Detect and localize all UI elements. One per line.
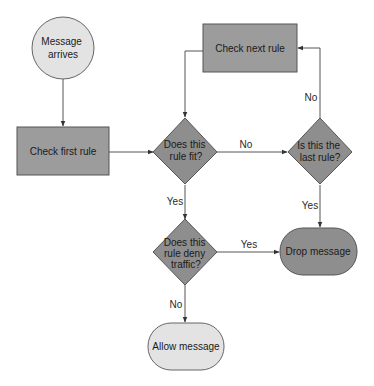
edge-label-deny-no: No: [170, 299, 183, 310]
node-label-line: arrives: [48, 49, 78, 60]
node-allow-message: Allow message: [148, 323, 224, 370]
node-label-line: rule deny: [164, 248, 205, 259]
edge-last-no-to-next-rule: [298, 48, 320, 118]
node-last-rule-decision: Is this the last rule?: [288, 118, 352, 184]
start-circle-shape: [32, 17, 94, 79]
decision-diamond-shape: [288, 118, 352, 184]
edge-next-rule-to-fit: [185, 51, 203, 117]
node-label: Allow message: [152, 341, 220, 352]
node-rule-deny-decision: Does this rule deny traffic?: [153, 219, 217, 285]
node-label: Does this rule fit?: [164, 139, 208, 162]
node-label-line: Message: [41, 36, 82, 47]
node-label-line: Does this: [164, 139, 206, 150]
edges: [63, 48, 320, 322]
node-label-line: last rule?: [300, 152, 341, 163]
node-message-arrives: Message arrives: [32, 17, 94, 79]
firewall-rule-flowchart: No No Yes Yes Yes No Message arrives Che…: [0, 0, 374, 386]
node-label-line: rule fit?: [170, 151, 203, 162]
node-drop-message: Drop message: [280, 228, 357, 275]
node-label: Is this the last rule?: [297, 140, 343, 163]
node-check-next-rule: Check next rule: [203, 24, 297, 72]
node-label-line: traffic?: [171, 259, 201, 270]
node-label: Check next rule: [215, 43, 285, 54]
node-rule-fit-decision: Does this rule fit?: [153, 118, 217, 184]
edge-label-fit-yes: Yes: [167, 196, 183, 207]
edge-label-last-yes: Yes: [302, 200, 318, 211]
node-label-line: Is this the: [297, 140, 340, 151]
node-label: Drop message: [285, 246, 350, 257]
node-label: Check first rule: [30, 146, 97, 157]
edge-label-last-no: No: [305, 92, 318, 103]
node-check-first-rule: Check first rule: [17, 127, 109, 175]
edge-label-deny-yes: Yes: [241, 239, 257, 250]
node-label-line: Does this: [164, 237, 206, 248]
edge-label-fit-no: No: [240, 139, 253, 150]
